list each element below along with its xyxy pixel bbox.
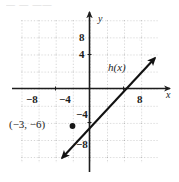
y-axis-label: y bbox=[98, 14, 102, 24]
y-tick-label-4: 4 bbox=[79, 49, 85, 60]
point-coordinate-label: (−3, −6) bbox=[9, 119, 45, 130]
coordinate-plane bbox=[0, 0, 179, 182]
graph-screenshot: — — —— bbox=[0, 0, 179, 182]
y-tick-label-neg4: −4 bbox=[76, 109, 88, 120]
x-axis-label: x bbox=[166, 90, 170, 100]
y-tick-label-neg8: −8 bbox=[76, 139, 88, 150]
function-label-hx: h(x) bbox=[108, 62, 126, 73]
y-tick-label-8: 8 bbox=[79, 32, 85, 43]
x-tick-label-8: 8 bbox=[137, 94, 143, 105]
x-tick-label-neg4: −4 bbox=[59, 94, 71, 105]
marked-point bbox=[70, 123, 76, 129]
x-tick-label-neg8: −8 bbox=[26, 94, 38, 105]
